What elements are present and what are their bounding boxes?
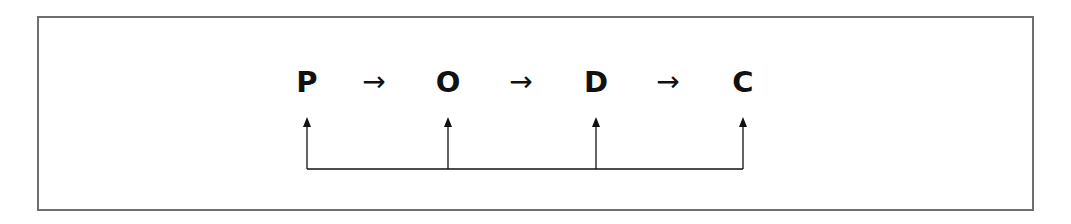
arrow-up-icon [592, 117, 600, 127]
arrow-up-icon [303, 117, 311, 127]
feedback-connector [0, 0, 1071, 224]
arrow-up-icon [739, 117, 747, 127]
arrow-up-icon [444, 117, 452, 127]
